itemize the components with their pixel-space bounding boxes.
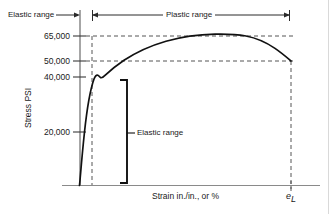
y-tick-label-50000: 50,000 <box>32 57 70 66</box>
y-tick-label-20000: 20,000 <box>32 128 70 137</box>
elastic-range-bracket <box>120 80 127 183</box>
y-axis-title: Stress PSI <box>24 88 33 128</box>
y-tick-label-65000: 65,000 <box>32 32 70 41</box>
stress-strain-curve <box>80 34 292 185</box>
elastic-range-top-label: Elastic range <box>8 11 54 19</box>
x-axis-title: Strain in./in., or % <box>152 192 219 201</box>
failure-strain-subscript: L <box>291 194 296 204</box>
failure-strain-label: eL <box>286 192 296 204</box>
stress-strain-figure: 65,000 50,000 40,000 20,000 Stress PSI S… <box>0 0 329 214</box>
y-tick-label-40000: 40,000 <box>32 73 70 82</box>
plastic-range-label: Plastic range <box>163 11 215 19</box>
elastic-range-bracket-label: Elastic range <box>137 129 183 137</box>
elastic-range-top-arrow-head <box>74 12 80 17</box>
